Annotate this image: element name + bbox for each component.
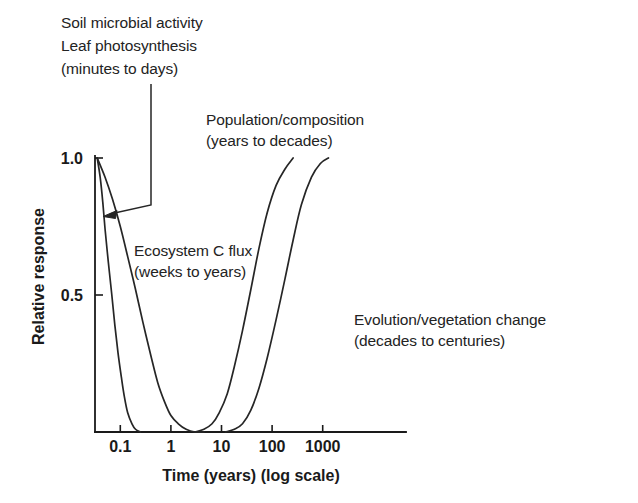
y-tick-label-0: 0.5: [61, 287, 83, 304]
annotation-soil-leaf-line-2: Leaf photosynthesis: [61, 37, 197, 54]
annotation-ecosystem: Ecosystem C flux (weeks to years): [134, 242, 252, 280]
x-axis-tick-labels: 0.11101001000: [109, 438, 340, 455]
y-axis-ticks: [95, 158, 103, 295]
figure-canvas: Soil microbial activity Leaf photosynthe…: [0, 0, 638, 503]
curve-evolution-vegetation: [226, 158, 329, 432]
annotation-soil-leaf-line-1: Soil microbial activity: [61, 14, 203, 31]
x-tick-label-4: 1000: [305, 438, 341, 455]
annotation-population-line-1: Population/composition: [206, 111, 364, 128]
y-axis-tick-labels: 0.51.0: [61, 150, 83, 304]
annotation-population-line-2: (years to decades): [206, 132, 333, 149]
annotation-ecosystem-line-1: Ecosystem C flux: [134, 242, 252, 259]
y-axis-title: Relative response: [30, 208, 47, 345]
x-axis: 0.11101001000 Time (years) (log scale): [95, 425, 406, 484]
x-axis-ticks: [120, 425, 322, 432]
x-tick-label-0: 0.1: [109, 438, 131, 455]
y-axis: 0.51.0 Relative response: [30, 150, 103, 432]
annotation-evolution: Evolution/vegetation change (decades to …: [354, 311, 546, 349]
annotation-soil-leaf-line-3: (minutes to days): [61, 60, 178, 77]
curve-population-composition: [195, 158, 293, 432]
x-tick-label-2: 10: [213, 438, 231, 455]
x-tick-label-3: 100: [259, 438, 286, 455]
annotation-ecosystem-line-2: (weeks to years): [134, 263, 246, 280]
leader-line-soil-leaf: [110, 84, 151, 214]
annotation-soil-leaf: Soil microbial activity Leaf photosynthe…: [61, 14, 203, 219]
x-axis-title: Time (years) (log scale): [162, 467, 340, 484]
curve-soil-leaf: [97, 158, 140, 432]
y-tick-label-1: 1.0: [61, 150, 83, 167]
annotation-population: Population/composition (years to decades…: [206, 111, 364, 149]
curves-group: [97, 158, 328, 432]
x-tick-label-1: 1: [166, 438, 175, 455]
arrowhead-icon: [103, 211, 117, 219]
annotation-evolution-line-1: Evolution/vegetation change: [354, 311, 546, 328]
annotation-evolution-line-2: (decades to centuries): [354, 332, 505, 349]
